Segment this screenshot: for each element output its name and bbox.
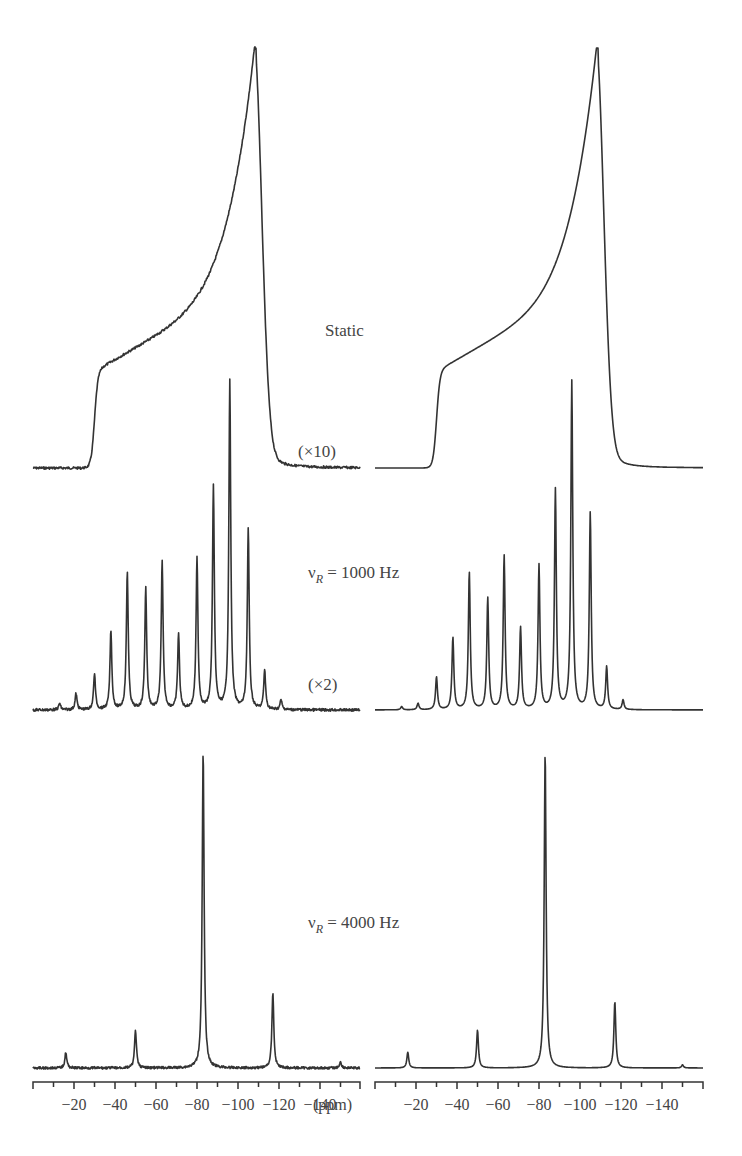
spinning-1000hz-spectrum-left [33, 379, 360, 711]
x-axis-unit-label: (ppm) [313, 1096, 352, 1114]
x-tick-label: −40 [444, 1096, 469, 1113]
x-axis-left [33, 1082, 360, 1089]
x-tick-label: −20 [61, 1096, 86, 1113]
static-spectrum-left [33, 47, 360, 469]
x-tick-label: −20 [403, 1096, 428, 1113]
x-tick-label: −80 [184, 1096, 209, 1113]
x-tick-label: −120 [262, 1096, 295, 1113]
x-tick-label: −40 [102, 1096, 127, 1113]
x-tick-label: −80 [526, 1096, 551, 1113]
x-axis-right [375, 1082, 703, 1089]
static-spectrum-right [375, 48, 703, 468]
nmr-spectra-figure: −20−40−60−80−100−120−140−20−40−60−80−100… [0, 0, 742, 1156]
spinning-4000hz-spectrum-right [375, 758, 703, 1069]
scale-x2-label: (×2) [308, 675, 337, 694]
x-tick-label: −120 [604, 1096, 637, 1113]
spinning-4000hz-label: νR = 4000 Hz [308, 913, 400, 936]
x-tick-label: −60 [143, 1096, 168, 1113]
spinning-1000hz-spectrum-right [375, 380, 703, 710]
scale-x10-label: (×10) [298, 442, 336, 461]
x-tick-label: −140 [645, 1096, 678, 1113]
x-tick-label: −100 [221, 1096, 254, 1113]
spinning-1000hz-label: νR = 1000 Hz [308, 563, 400, 586]
x-tick-label: −100 [563, 1096, 596, 1113]
static-label: Static [325, 321, 364, 340]
x-tick-label: −60 [485, 1096, 510, 1113]
